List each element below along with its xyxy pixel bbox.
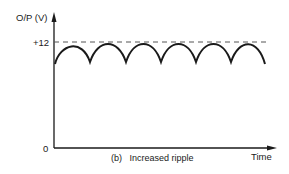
level-label: +12 [33,37,49,48]
y-axis-arrow-icon [52,12,57,22]
ripple-diagram: O/P (V) +12 0 Time (b) Increased ripple [0,0,289,174]
y-axis-label: O/P (V) [16,12,48,23]
x-axis-arrow-icon [267,146,277,151]
x-axis-label: Time [251,151,272,162]
origin-label: 0 [43,143,48,154]
ripple-waveform [55,44,265,64]
figure-caption: (b) Increased ripple [111,153,194,163]
